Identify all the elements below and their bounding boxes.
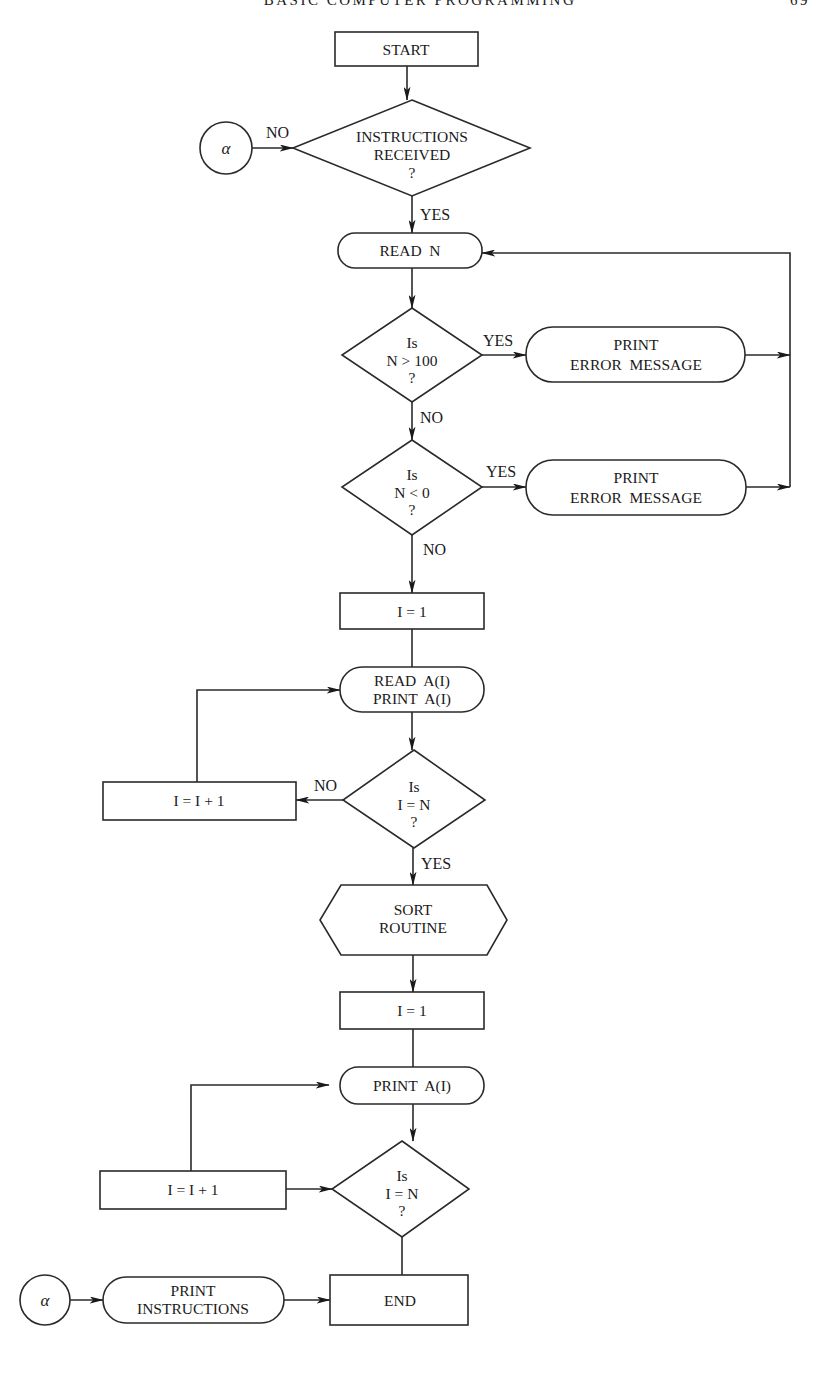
running-header: BASIC COMPUTER PROGRAMMING 69	[264, 0, 810, 8]
node-is-n-lt-0: Is N < 0 ?	[342, 440, 482, 535]
label-loop1-no: NO	[314, 777, 337, 794]
node-print-instructions-line2: INSTRUCTIONS	[137, 1300, 249, 1317]
node-error1-line1: PRINT	[614, 336, 659, 353]
node-lt0-line1: Is	[406, 466, 417, 483]
node-connector-alpha-in: α	[200, 122, 252, 174]
node-check2-line3: ?	[399, 1202, 406, 1219]
node-readprint-line2: PRINT A(I)	[373, 690, 451, 708]
node-print-instructions: PRINT INSTRUCTIONS	[103, 1277, 284, 1323]
node-gt100-line1: Is	[406, 334, 417, 351]
node-print-a: PRINT A(I)	[340, 1067, 484, 1104]
alpha-symbol: α	[41, 1291, 51, 1310]
label-gt100-yes: YES	[483, 332, 513, 349]
edge-increment2-to-print	[191, 1085, 329, 1171]
node-gt100-line3: ?	[409, 369, 416, 386]
node-init-i-1: I = 1	[340, 593, 484, 629]
label-instructions-no: NO	[266, 124, 289, 141]
node-end-text: END	[384, 1292, 416, 1309]
node-instructions-line2: RECEIVED	[374, 146, 451, 163]
node-increment-1: I = I + 1	[103, 782, 296, 820]
node-print-error-1: PRINT ERROR MESSAGE	[526, 327, 745, 382]
flowchart-canvas: BASIC COMPUTER PROGRAMMING 69	[0, 0, 836, 1394]
node-increment-2: I = I + 1	[100, 1171, 286, 1209]
node-instructions-line1: INSTRUCTIONS	[356, 128, 468, 145]
node-lt0-line2: N < 0	[394, 484, 430, 501]
node-check1-line1: Is	[408, 778, 419, 795]
page-number: 69	[790, 0, 810, 8]
node-error2-line2: ERROR MESSAGE	[570, 489, 702, 506]
node-init-i-2: I = 1	[340, 992, 484, 1029]
node-sort-line2: ROUTINE	[379, 919, 447, 936]
node-error1-line2: ERROR MESSAGE	[570, 356, 702, 373]
node-init1-text: I = 1	[397, 603, 426, 620]
node-init2-text: I = 1	[397, 1002, 426, 1019]
node-sort-routine: SORT ROUTINE	[320, 885, 507, 955]
node-connector-alpha-out: α	[20, 1275, 70, 1325]
node-lt0-line3: ?	[409, 501, 416, 518]
node-check2-line1: Is	[396, 1167, 407, 1184]
edge-increment1-to-readprint	[197, 690, 340, 782]
alpha-symbol: α	[222, 139, 232, 158]
label-gt100-no: NO	[420, 409, 443, 426]
node-instructions-line3: ?	[409, 164, 416, 181]
node-is-n-gt-100: Is N > 100 ?	[342, 308, 482, 402]
running-title: BASIC COMPUTER PROGRAMMING	[264, 0, 577, 8]
node-is-i-eq-n-2: Is I = N ?	[332, 1141, 469, 1237]
node-sort-line1: SORT	[394, 901, 433, 918]
node-instructions-received: INSTRUCTIONS RECEIVED ?	[293, 100, 530, 196]
node-start: START	[335, 32, 478, 66]
label-lt0-no: NO	[423, 541, 446, 558]
node-is-i-eq-n-1: Is I = N ?	[343, 750, 485, 848]
node-read-print-a: READ A(I) PRINT A(I)	[340, 667, 484, 712]
node-end: END	[330, 1275, 468, 1325]
node-print-a-text: PRINT A(I)	[373, 1077, 451, 1095]
label-instructions-yes: YES	[420, 206, 450, 223]
node-print-error-2: PRINT ERROR MESSAGE	[526, 460, 746, 515]
node-start-text: START	[383, 41, 430, 58]
node-gt100-line2: N > 100	[387, 352, 438, 369]
node-check1-line3: ?	[411, 813, 418, 830]
node-check1-line2: I = N	[398, 796, 431, 813]
node-read-n-text: READ N	[379, 242, 440, 259]
node-read-n: READ N	[338, 233, 482, 268]
label-loop1-yes: YES	[421, 855, 451, 872]
node-increment2-text: I = I + 1	[167, 1181, 218, 1198]
node-check2-line2: I = N	[386, 1185, 419, 1202]
node-print-instructions-line1: PRINT	[171, 1282, 216, 1299]
label-lt0-yes: YES	[486, 463, 516, 480]
node-error2-line1: PRINT	[614, 469, 659, 486]
node-readprint-line1: READ A(I)	[374, 672, 450, 690]
node-increment1-text: I = I + 1	[173, 792, 224, 809]
